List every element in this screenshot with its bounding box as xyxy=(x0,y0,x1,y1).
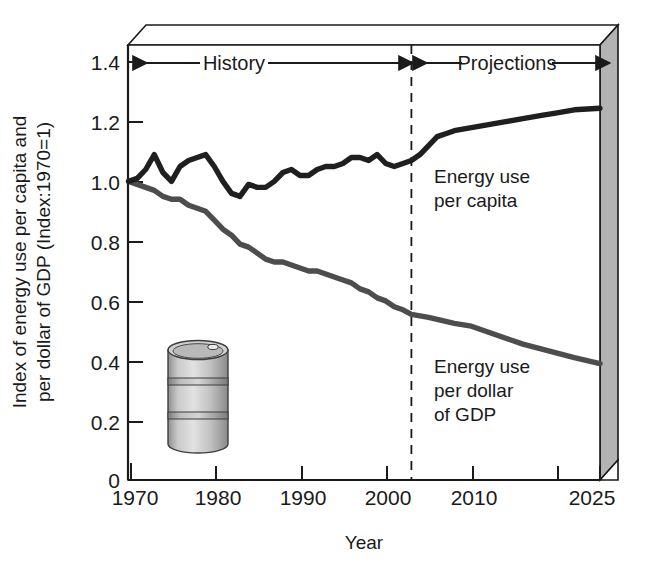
series-label-energy-per-gdp-line2: per dollar xyxy=(434,380,514,401)
series-label-energy-per-capita-line2: per capita xyxy=(434,190,518,211)
x-axis-title: Year xyxy=(345,532,384,553)
y-tick-label-1.4: 1.4 xyxy=(91,51,121,74)
series-label-energy-per-gdp-line3: of GDP xyxy=(434,404,496,425)
y-tick-label-1.2: 1.2 xyxy=(91,111,120,134)
barrel-bung-cap-icon xyxy=(208,344,218,349)
projections-label: Projections xyxy=(458,52,557,74)
barrel-body xyxy=(168,350,228,453)
y-axis-title-line2: per dollar of GDP (Index:1970=1) xyxy=(33,122,54,402)
box-top-face xyxy=(128,25,618,45)
y-axis-tick-labels: 1.4 1.2 1.0 0.8 0.6 0.4 0.2 0 xyxy=(91,51,121,492)
series-label-energy-per-capita-line1: Energy use xyxy=(434,166,530,187)
x-tick-label-1970: 1970 xyxy=(112,486,159,509)
y-tick-label-0.6: 0.6 xyxy=(91,291,120,314)
x-tick-label-2025: 2025 xyxy=(569,486,616,509)
barrel-rib-lower xyxy=(168,412,228,419)
box-side-face xyxy=(600,25,618,480)
x-axis-tick-labels: 1970 1980 1990 2000 2010 2025 xyxy=(112,486,616,509)
y-tick-label-0.4: 0.4 xyxy=(91,351,121,374)
y-axis-title: Index of energy use per capita and per d… xyxy=(9,116,54,409)
y-axis-title-line1: Index of energy use per capita and xyxy=(9,116,30,409)
x-tick-label-1990: 1990 xyxy=(280,486,327,509)
x-tick-label-1980: 1980 xyxy=(195,486,242,509)
oil-barrel-icon xyxy=(168,341,228,454)
x-tick-label-2010: 2010 xyxy=(451,486,498,509)
energy-index-chart-figure: 1.4 1.2 1.0 0.8 0.6 0.4 0.2 0 1970 1980 … xyxy=(0,0,650,579)
x-tick-label-2000: 2000 xyxy=(365,486,412,509)
chart-svg: 1.4 1.2 1.0 0.8 0.6 0.4 0.2 0 1970 1980 … xyxy=(0,0,650,579)
barrel-rib-upper xyxy=(168,378,228,385)
history-label: History xyxy=(203,52,265,74)
y-tick-label-0.8: 0.8 xyxy=(91,231,120,254)
y-tick-label-1.0: 1.0 xyxy=(91,171,120,194)
y-tick-label-0.2: 0.2 xyxy=(91,411,120,434)
series-label-energy-per-gdp-line1: Energy use xyxy=(434,356,530,377)
